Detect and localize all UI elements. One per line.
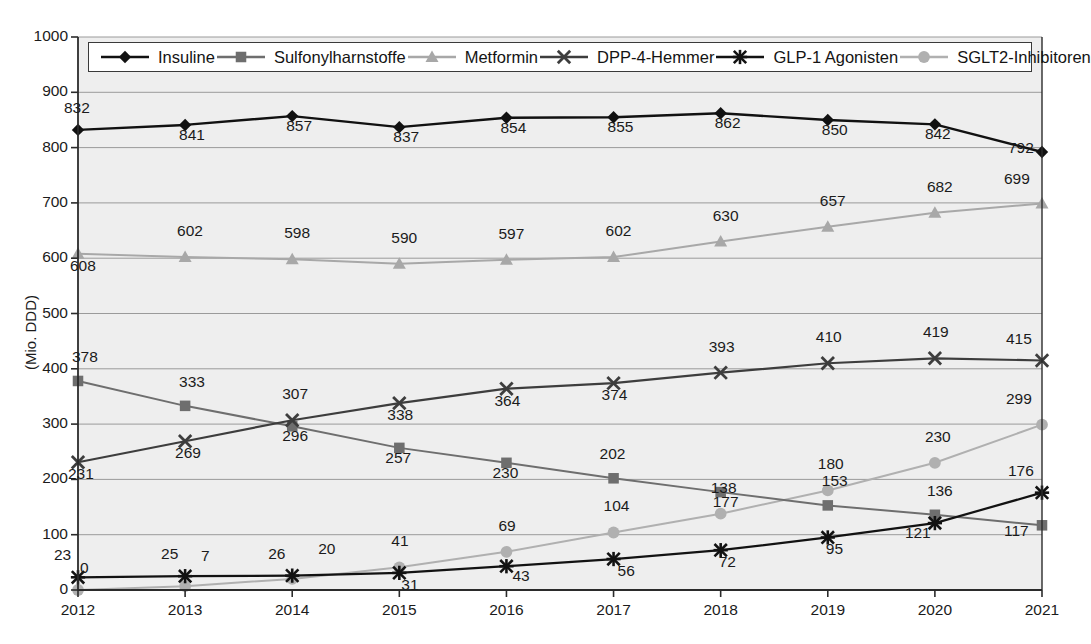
data-point-label: 43 [512,567,529,585]
data-point-label: 792 [1008,139,1034,157]
square-marker-icon [215,44,267,70]
data-point-label: 231 [68,465,94,483]
data-point-label: 333 [179,373,205,391]
data-point-label: 26 [268,545,285,563]
data-point-label: 20 [318,540,335,558]
circle-marker [918,51,930,63]
x-cross-marker-icon [538,44,590,70]
x-tick-label: 2020 [900,601,970,619]
square-marker [823,500,834,511]
data-point-label: 602 [177,222,203,240]
x-tick-label: 2013 [150,601,220,619]
x-tick-label: 2012 [43,601,113,619]
legend-item-sglt2-inhibitoren[interactable]: SGLT2-Inhibitoren [898,44,1091,70]
data-point-label: 415 [1006,330,1032,348]
y-tick-label: 500 [10,304,68,322]
data-point-label: 419 [923,323,949,341]
legend-item-label: SGLT2-Inhibitoren [953,48,1091,67]
legend-item-glp-1-agonisten[interactable]: GLP-1 Agonisten [714,44,898,70]
data-point-label: 56 [618,562,635,580]
data-point-label: 699 [1004,170,1030,188]
data-point-label: 299 [1006,390,1032,408]
data-point-label: 269 [175,444,201,462]
data-point-label: 230 [492,464,518,482]
legend-item-dpp-4-hemmer[interactable]: DPP-4-Hemmer [538,44,714,70]
legend-item-label: Sulfonylharnstoffe [270,48,406,67]
data-point-label: 832 [64,99,90,117]
data-point-label: 393 [709,338,735,356]
data-point-label: 230 [925,428,951,446]
legend-item-label: Insuline [154,48,215,67]
square-marker [608,473,619,484]
circle-marker [608,527,620,539]
data-point-label: 95 [826,540,843,558]
x-tick-label: 2014 [257,601,327,619]
asterisk-marker [733,50,747,64]
data-point-label: 862 [715,114,741,132]
data-point-label: 410 [816,328,842,346]
y-tick-label: 700 [10,193,68,211]
data-point-label: 31 [401,576,418,594]
x-tick-label: 2021 [1007,601,1077,619]
diamond-marker [119,51,131,63]
y-tick-label: 600 [10,248,68,266]
data-point-label: 7 [201,547,210,565]
y-tick-label: 800 [10,138,68,156]
y-tick-label: 1000 [10,27,68,45]
y-tick-label: 400 [10,359,68,377]
data-point-label: 590 [391,229,417,247]
data-point-label: 202 [600,445,626,463]
data-point-label: 850 [822,121,848,139]
data-point-label: 176 [1008,462,1034,480]
data-point-label: 296 [282,427,308,445]
y-tick-label: 200 [10,469,68,487]
data-point-label: 117 [1004,522,1029,540]
data-point-label: 374 [602,386,628,404]
data-point-label: 608 [70,257,96,275]
data-point-label: 307 [282,385,308,403]
legend-item-metformin[interactable]: Metformin [406,44,538,70]
data-point-label: 598 [284,224,310,242]
data-point-label: 72 [719,553,736,571]
data-point-label: 121 [905,524,931,542]
circle-marker [501,546,513,558]
x-tick-label: 2016 [471,601,541,619]
y-tick-label: 0 [10,580,68,598]
data-point-label: 25 [161,545,178,563]
data-point-label: 364 [494,392,520,410]
circle-marker-icon [898,44,950,70]
data-point-label: 153 [822,472,848,490]
data-point-label: 841 [179,126,205,144]
data-point-label: 41 [391,532,408,550]
data-point-label: 854 [500,119,526,137]
data-point-label: 69 [498,517,515,535]
square-marker [236,52,247,63]
x-tick-label: 2018 [686,601,756,619]
asterisk-marker [499,559,513,573]
diamond-marker-icon [99,44,151,70]
x-tick-label: 2015 [364,601,434,619]
square-marker [180,401,191,412]
legend-item-label: DPP-4-Hemmer [593,48,714,67]
legend-item-label: GLP-1 Agonisten [769,48,898,67]
circle-marker [929,457,941,469]
data-point-label: 23 [54,546,71,564]
y-tick-label: 300 [10,414,68,432]
data-point-label: 630 [713,207,739,225]
data-point-label: 257 [385,449,411,467]
data-point-label: 682 [927,178,953,196]
legend-item-insuline[interactable]: Insuline [99,44,215,70]
y-tick-label: 100 [10,525,68,543]
data-point-label: 657 [820,192,846,210]
data-point-label: 857 [286,117,312,135]
data-point-label: 0 [80,559,89,577]
asterisk-marker [285,568,299,582]
data-point-label: 136 [927,482,953,500]
triangle-marker-icon [406,44,458,70]
chart-legend: InsulineSulfonylharnstoffeMetforminDPP-4… [88,42,1032,72]
x-tick-label: 2019 [793,601,863,619]
data-point-label: 855 [608,118,634,136]
legend-item-sulfonylharnstoffe[interactable]: Sulfonylharnstoffe [215,44,406,70]
data-point-label: 597 [498,225,524,243]
